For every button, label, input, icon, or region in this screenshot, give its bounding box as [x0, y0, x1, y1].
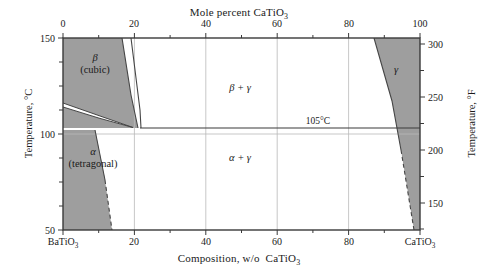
- bottom-tick-60: 60: [272, 236, 282, 247]
- bottom-tick-20: 20: [129, 236, 139, 247]
- left-tick-100: 100: [40, 129, 55, 140]
- isotherm-label-105c: 105°C: [306, 116, 330, 126]
- region-label-gamma: γ: [394, 64, 398, 76]
- region-label-beta-plus-gamma: β + γ: [229, 82, 251, 94]
- top-tick-100: 100: [413, 18, 428, 29]
- bottom-tick-batio3: BaTiO3: [48, 236, 78, 250]
- plot-canvas: [0, 0, 478, 273]
- bottom-axis-title: Composition, w/o CaTiO3: [0, 252, 478, 267]
- region-label-beta: β (cubic): [80, 52, 110, 76]
- right-tick-200: 200: [428, 145, 443, 156]
- right-tick-150: 150: [428, 198, 443, 209]
- region-label-alpha-symbol: α: [90, 146, 96, 157]
- right-tick-250: 250: [428, 92, 443, 103]
- region-label-alpha-plus-gamma: α + γ: [229, 152, 251, 164]
- left-tick-150: 150: [40, 33, 55, 44]
- right-axis-ticks: [420, 44, 425, 229]
- top-tick-80: 80: [344, 18, 354, 29]
- bottom-axis-title-text: Composition, w/o CaTiO3: [178, 252, 301, 264]
- region-label-beta-sub: (cubic): [80, 64, 110, 75]
- bottom-tick-80: 80: [344, 236, 354, 247]
- top-axis-ticks: [63, 33, 420, 38]
- top-tick-0: 0: [61, 18, 66, 29]
- region-label-beta-symbol: β: [92, 52, 97, 63]
- bottom-axis-ticks: [63, 230, 420, 235]
- top-tick-40: 40: [201, 18, 211, 29]
- region-label-alpha-sub: (tetragonal): [69, 158, 118, 169]
- left-tick-50: 50: [45, 225, 55, 236]
- bottom-tick-catio3: CaTiO3: [405, 236, 435, 250]
- left-axis-ticks: [58, 38, 63, 230]
- region-label-alpha: α (tetragonal): [69, 146, 118, 170]
- top-tick-20: 20: [129, 18, 139, 29]
- top-tick-60: 60: [272, 18, 282, 29]
- right-tick-300: 300: [428, 39, 443, 50]
- bottom-tick-40: 40: [201, 236, 211, 247]
- phase-diagram-figure: Mole percent CaTiO3 Temperature, °C Temp…: [0, 0, 478, 273]
